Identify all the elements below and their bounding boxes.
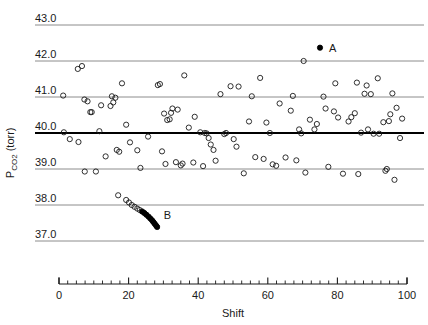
data-point-filled xyxy=(155,224,160,229)
annotation-label-b: B xyxy=(164,209,171,221)
y-axis-tick-label: 42.0 xyxy=(35,48,56,60)
y-axis-title-main: P xyxy=(4,171,16,178)
x-axis-title: Shift xyxy=(222,307,244,319)
y-axis-tick-label: 39.0 xyxy=(35,156,56,168)
pco2-shift-scatter-plot: 37.038.039.040.041.042.043.0 AB 02040608… xyxy=(0,0,428,325)
y-axis-tick-label: 41.0 xyxy=(35,84,56,96)
data-point-filled xyxy=(317,45,322,50)
y-axis-tick-label: 38.0 xyxy=(35,192,56,204)
x-axis-tick-label: 60 xyxy=(262,289,274,301)
y-axis-title-units: (torr) xyxy=(4,127,16,154)
x-axis-tick-label: 80 xyxy=(331,289,343,301)
x-axis-tick-label: 0 xyxy=(56,289,62,301)
x-axis-tick-label: 40 xyxy=(192,289,204,301)
y-axis-tick-label: 37.0 xyxy=(35,228,56,240)
x-axis-tick-label: 20 xyxy=(122,289,134,301)
y-axis-tick-label: 40.0 xyxy=(35,120,56,132)
chart-figure: 37.038.039.040.041.042.043.0 AB 02040608… xyxy=(0,0,428,325)
annotation-label-a: A xyxy=(329,42,337,54)
x-axis-tick-label: 100 xyxy=(398,289,416,301)
y-axis-tick-label: 43.0 xyxy=(35,12,56,24)
y-axis-title-subscript: CO2 xyxy=(10,154,19,171)
